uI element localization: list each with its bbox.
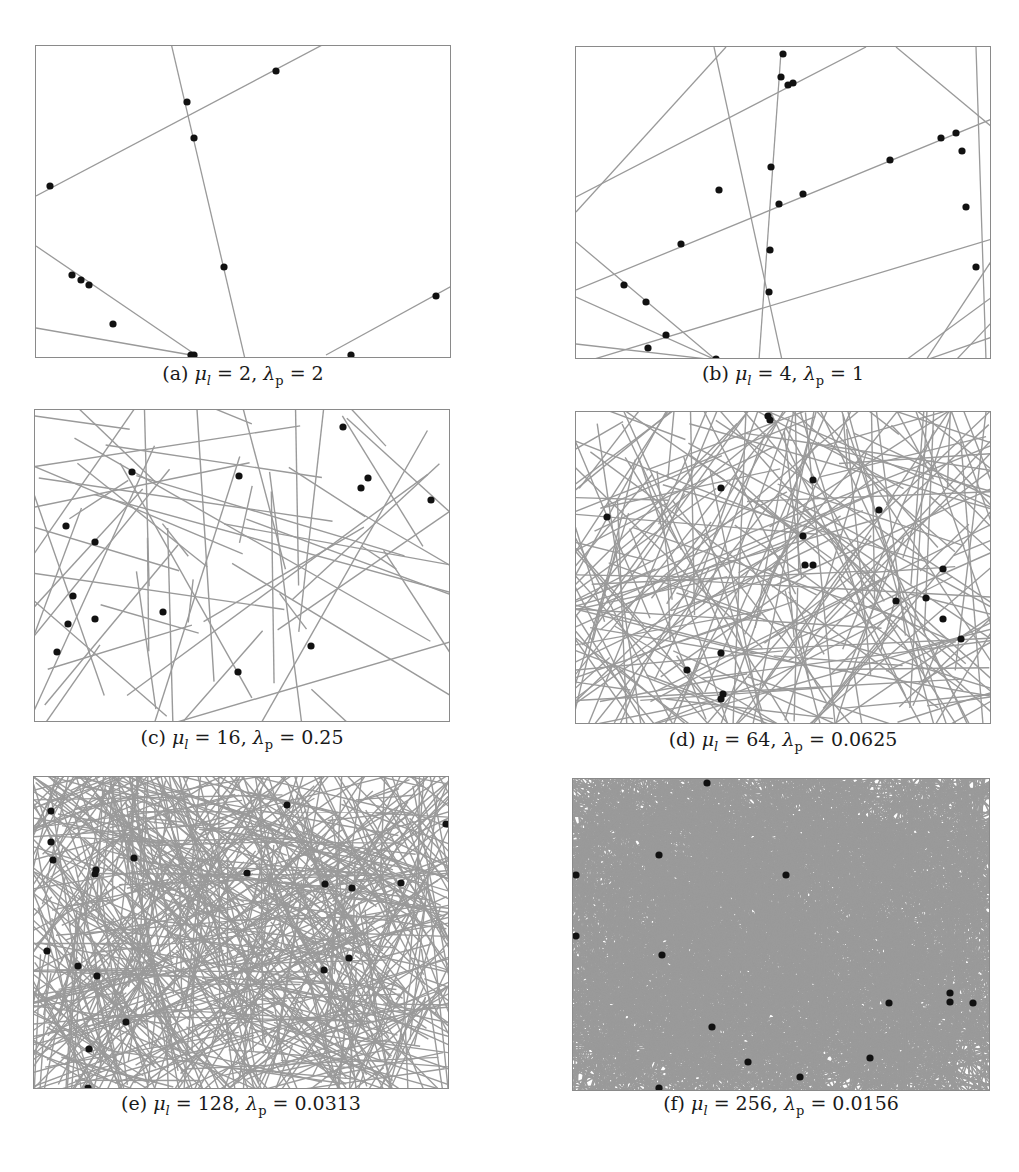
- caption-label: (e): [121, 1092, 147, 1114]
- plot-frame-b: [575, 46, 991, 359]
- line-segment: [120, 463, 252, 697]
- mu-symbol: μ: [702, 728, 714, 750]
- caption-f: (f) μl = 256, λp = 0.0156: [572, 1092, 990, 1118]
- sample-point: [85, 281, 92, 288]
- sample-point: [789, 79, 796, 86]
- caption-label: (b): [702, 362, 729, 384]
- mu-symbol: μ: [691, 1092, 703, 1114]
- line-segment: [823, 833, 824, 968]
- sample-point: [243, 869, 250, 876]
- sample-point: [708, 1023, 715, 1030]
- sample-point: [109, 320, 116, 327]
- sample-point: [717, 649, 724, 656]
- sample-point: [235, 472, 242, 479]
- sample-point: [62, 522, 69, 529]
- caption-label: (d): [669, 728, 696, 750]
- sample-point: [339, 423, 346, 430]
- sample-point: [809, 476, 816, 483]
- line-segment: [576, 47, 866, 197]
- line-segment: [101, 605, 199, 633]
- sample-point: [234, 668, 241, 675]
- plot-frame-f: [572, 778, 990, 1091]
- sample-point: [190, 134, 197, 141]
- sample-point: [432, 292, 439, 299]
- lambda-value: 0.0625: [831, 728, 897, 750]
- line-segment: [36, 246, 196, 355]
- sample-point: [49, 856, 56, 863]
- plot-frame-d: [575, 411, 991, 724]
- sample-point: [782, 871, 789, 878]
- lambda-subscript: p: [795, 739, 803, 754]
- sample-point: [128, 468, 135, 475]
- mu-value: 16: [217, 726, 241, 748]
- lambda-symbol: λ: [784, 1092, 796, 1114]
- line-segment: [106, 445, 322, 478]
- plot-frame-a: [35, 45, 451, 358]
- sample-point: [777, 73, 784, 80]
- line-segment: [350, 410, 386, 446]
- line-segment: [35, 412, 130, 429]
- sample-point: [91, 870, 98, 877]
- mu-symbol: μ: [195, 362, 207, 384]
- mu-value: 2: [239, 362, 251, 384]
- separator: ,: [251, 362, 263, 384]
- sample-point: [801, 561, 808, 568]
- line-segment: [976, 47, 986, 359]
- sample-point: [939, 565, 946, 572]
- sample-point: [703, 779, 710, 786]
- sample-point: [677, 240, 684, 247]
- sample-point: [347, 351, 354, 358]
- sample-point: [47, 807, 54, 814]
- line-field: [35, 410, 450, 722]
- line-segment: [326, 286, 451, 355]
- lambda-symbol: λ: [263, 362, 275, 384]
- sample-point: [655, 851, 662, 858]
- sample-point: [53, 648, 60, 655]
- separator: ,: [241, 726, 253, 748]
- lambda-symbol: λ: [253, 726, 265, 748]
- sample-point: [307, 642, 314, 649]
- sample-point: [775, 200, 782, 207]
- sample-point: [47, 838, 54, 845]
- sample-point: [69, 592, 76, 599]
- line-field: [576, 412, 991, 724]
- line-segment: [35, 426, 300, 478]
- caption-b: (b) μl = 4, λp = 1: [575, 362, 991, 388]
- sample-point: [642, 298, 649, 305]
- caption-label: (f): [663, 1092, 685, 1114]
- sample-point: [130, 854, 137, 861]
- sample-point: [937, 134, 944, 141]
- line-segment: [926, 260, 991, 359]
- equals: =: [751, 362, 779, 384]
- equals: =: [718, 728, 746, 750]
- line-segment: [668, 412, 678, 478]
- lambda-value: 0.25: [301, 726, 343, 748]
- sample-point: [272, 67, 279, 74]
- sample-point: [946, 989, 953, 996]
- caption-d: (d) μl = 64, λp = 0.0625: [575, 728, 991, 754]
- lambda-symbol: λ: [804, 362, 816, 384]
- mu-value: 256: [736, 1092, 772, 1114]
- line-segment: [299, 410, 330, 632]
- lambda-value: 2: [312, 362, 324, 384]
- separator: ,: [770, 728, 782, 750]
- sample-point: [122, 1018, 129, 1025]
- sample-point: [348, 884, 355, 891]
- sample-point: [620, 281, 627, 288]
- sample-point: [875, 506, 882, 513]
- sample-point: [662, 331, 669, 338]
- equals: =: [189, 726, 217, 748]
- sample-point: [68, 271, 75, 278]
- sample-point: [159, 608, 166, 615]
- sample-point: [744, 1058, 751, 1065]
- sample-point: [85, 1045, 92, 1052]
- line-segment: [361, 546, 396, 569]
- line-segment: [35, 556, 284, 610]
- line-segment: [906, 297, 991, 359]
- sample-point: [922, 594, 929, 601]
- sample-point: [892, 597, 899, 604]
- mu-value: 64: [746, 728, 770, 750]
- sample-point: [766, 246, 773, 253]
- line-segment: [204, 527, 364, 622]
- line-segment: [353, 509, 450, 566]
